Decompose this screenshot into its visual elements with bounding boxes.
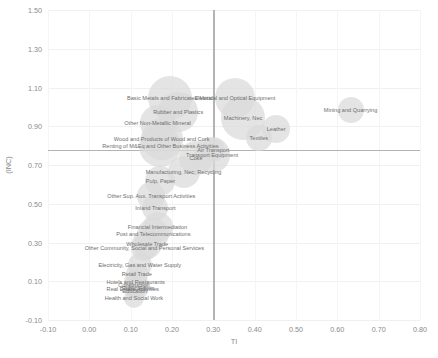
y-axis-tick-label: -0.10 bbox=[26, 316, 42, 325]
data-point-bubble[interactable] bbox=[338, 97, 364, 123]
x-axis-tick-label: 0.00 bbox=[82, 325, 96, 334]
y-axis-tick-label: 0.70 bbox=[28, 161, 42, 170]
gridline-horizontal bbox=[48, 320, 420, 321]
gridline-horizontal bbox=[48, 204, 420, 205]
x-axis-tick-label: 0.20 bbox=[165, 325, 179, 334]
scatter-chart: 1.501.301.100.900.700.500.300.10-0.10-0.… bbox=[0, 0, 438, 358]
data-point-bubble[interactable] bbox=[124, 275, 144, 295]
y-axis-tick-label: 0.50 bbox=[28, 199, 42, 208]
gridline-horizontal bbox=[48, 281, 420, 282]
horizontal-reference-line bbox=[48, 150, 420, 152]
x-axis-tick-label: 0.60 bbox=[330, 325, 344, 334]
y-axis-tick-label: 1.50 bbox=[28, 6, 42, 15]
gridline-vertical bbox=[296, 10, 297, 320]
x-axis-tick-label: 0.40 bbox=[248, 325, 262, 334]
gridline-vertical bbox=[337, 10, 338, 320]
y-axis-tick-label: 0.90 bbox=[28, 122, 42, 131]
x-axis-title: TI bbox=[231, 337, 238, 346]
y-axis-tick-label: 1.30 bbox=[28, 44, 42, 53]
gridline-horizontal bbox=[48, 49, 420, 50]
y-axis-title: (INC) bbox=[4, 156, 13, 174]
data-point-bubble[interactable] bbox=[246, 125, 272, 151]
gridline-horizontal bbox=[48, 165, 420, 166]
gridline-vertical bbox=[379, 10, 380, 320]
x-axis-tick-label: -0.10 bbox=[40, 325, 56, 334]
gridline-vertical bbox=[420, 10, 421, 320]
x-axis-tick-label: 0.30 bbox=[206, 325, 220, 334]
gridline-vertical bbox=[48, 10, 49, 320]
gridline-vertical bbox=[89, 10, 90, 320]
x-axis-tick-label: 0.50 bbox=[289, 325, 303, 334]
gridline-horizontal bbox=[48, 243, 420, 244]
x-axis-tick-label: 0.80 bbox=[413, 325, 427, 334]
y-axis-tick-label: 0.10 bbox=[28, 277, 42, 286]
gridline-vertical bbox=[255, 10, 256, 320]
gridline-horizontal bbox=[48, 10, 420, 11]
y-axis-tick-label: 0.30 bbox=[28, 238, 42, 247]
plot-area: 1.501.301.100.900.700.500.300.10-0.10-0.… bbox=[48, 10, 420, 320]
x-axis-tick-label: 0.70 bbox=[372, 325, 386, 334]
x-axis-tick-label: 0.10 bbox=[124, 325, 138, 334]
y-axis-tick-label: 1.10 bbox=[28, 83, 42, 92]
